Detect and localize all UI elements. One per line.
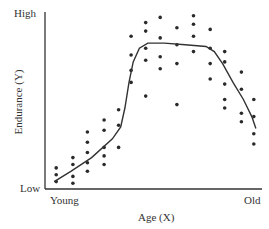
data-point (71, 156, 75, 160)
data-point (102, 129, 106, 133)
data-point (144, 46, 148, 50)
data-point (158, 16, 162, 20)
data-point (54, 173, 58, 177)
data-point (71, 182, 75, 186)
data-point (86, 130, 90, 134)
data-point (208, 62, 212, 66)
x-left-label: Young (50, 194, 79, 206)
data-point (240, 111, 244, 115)
data-point (144, 94, 148, 98)
data-point (240, 120, 244, 124)
data-point (223, 82, 227, 86)
data-point (144, 58, 148, 62)
x-axis-title-text: Age (X) (138, 211, 174, 223)
data-point (71, 163, 75, 167)
data-point (129, 53, 133, 57)
data-point (192, 50, 196, 54)
data-point (192, 23, 196, 27)
data-point (208, 28, 212, 32)
data-point (158, 67, 162, 71)
data-point (129, 34, 133, 38)
data-point (192, 14, 196, 18)
trend-line (54, 43, 256, 182)
scatter-plot (0, 0, 269, 229)
data-point (192, 34, 196, 38)
data-point (117, 146, 121, 150)
data-point (102, 118, 106, 122)
x-right-label: Old (244, 194, 261, 206)
data-point (223, 60, 227, 64)
data-point (252, 132, 256, 136)
data-point (86, 151, 90, 155)
data-point (102, 163, 106, 167)
data-point (117, 123, 121, 127)
data-point (252, 142, 256, 146)
data-point (158, 36, 162, 40)
data-point (223, 50, 227, 54)
data-point (86, 141, 90, 145)
data-point (102, 154, 106, 158)
data-point (144, 21, 148, 25)
data-point (252, 98, 256, 102)
x-axis-title: Age (X) (138, 211, 174, 223)
data-point (175, 103, 179, 107)
data-point (223, 106, 227, 110)
data-point (144, 29, 148, 33)
y-high-label: High (14, 7, 36, 19)
data-point (208, 77, 212, 81)
data-point (117, 108, 121, 112)
data-point (240, 70, 244, 74)
data-point (240, 87, 244, 91)
y-axis-title: Endurance (Y) (12, 52, 24, 152)
data-points (54, 14, 255, 185)
data-point (223, 98, 227, 102)
data-point (175, 62, 179, 66)
data-point (54, 166, 58, 170)
data-point (71, 175, 75, 179)
y-low-label: Low (20, 182, 40, 194)
data-point (158, 55, 162, 59)
data-point (86, 170, 90, 174)
data-point (175, 26, 179, 30)
